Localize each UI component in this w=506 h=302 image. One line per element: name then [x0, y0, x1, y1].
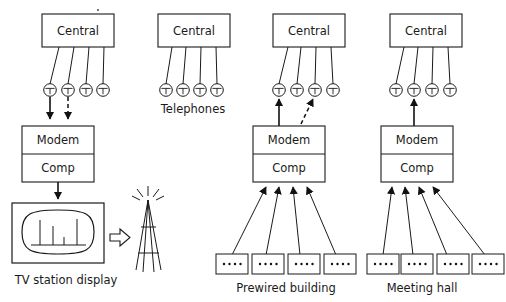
- modem-label-4: Modem: [396, 133, 439, 147]
- comp-label-1: Comp: [41, 161, 75, 175]
- terminal-box[interactable]: [437, 254, 469, 274]
- central-to-phone-lines-3: [279, 47, 333, 84]
- modem-comp-box-3[interactable]: Modem Comp: [253, 126, 325, 182]
- caption-tv-station: TV station display: [14, 273, 118, 287]
- telephone-icon[interactable]: [426, 84, 439, 97]
- tower-sparks: [132, 186, 164, 200]
- telephone-icon[interactable]: [211, 84, 224, 97]
- modem-comp-box-1[interactable]: Modem Comp: [22, 126, 94, 182]
- modem-comp-box-4[interactable]: Modem Comp: [381, 126, 453, 182]
- ink-speck: [97, 9, 99, 11]
- central-label-2: Central: [173, 24, 215, 38]
- telephone-icon[interactable]: [177, 84, 190, 97]
- central-box-1[interactable]: Central: [42, 14, 114, 47]
- caption-meeting-hall: Meeting hall: [387, 281, 458, 295]
- telephone-icon[interactable]: [80, 84, 93, 97]
- terminal-row-4: [367, 254, 504, 274]
- telephone-icon[interactable]: [97, 84, 110, 97]
- tv-display[interactable]: [12, 203, 104, 263]
- telephone-icon[interactable]: [62, 84, 75, 97]
- central-label-4: Central: [405, 24, 447, 38]
- telephone-icon[interactable]: [194, 84, 207, 97]
- flow-modem-to-phone3-3-dashed: [301, 99, 313, 124]
- telephone-icon[interactable]: [160, 84, 173, 97]
- modem-label-3: Modem: [268, 133, 311, 147]
- comp-label-4: Comp: [400, 161, 434, 175]
- terminal-box[interactable]: [324, 254, 356, 274]
- central-box-2[interactable]: Central: [158, 14, 230, 47]
- terminal-box[interactable]: [367, 254, 399, 274]
- telephone-row-1: [44, 84, 110, 97]
- central-box-3[interactable]: Central: [273, 14, 345, 47]
- central-box-4[interactable]: Central: [390, 14, 462, 47]
- comp-label-3: Comp: [272, 161, 306, 175]
- central-to-phone-lines-2: [166, 47, 217, 84]
- column-prewired-building: Central: [216, 14, 356, 295]
- telephone-icon[interactable]: [291, 84, 304, 97]
- central-label-3: Central: [288, 24, 330, 38]
- diagram-canvas: Central: [0, 0, 506, 302]
- telephone-row-4: [390, 84, 457, 97]
- central-to-phone-lines-4: [396, 47, 450, 84]
- modem-label-1: Modem: [37, 133, 80, 147]
- tv-screen: [22, 210, 94, 254]
- column-meeting-hall: Central: [367, 14, 504, 295]
- terminal-box[interactable]: [288, 254, 320, 274]
- terminal-links-3: [232, 187, 336, 255]
- telephone-icon[interactable]: [408, 84, 421, 97]
- telephone-icon[interactable]: [309, 84, 322, 97]
- terminal-links-4: [383, 187, 485, 255]
- caption-telephones: Telephones: [160, 102, 225, 116]
- terminal-box[interactable]: [472, 254, 504, 274]
- terminal-row-3: [216, 254, 356, 274]
- telephone-icon[interactable]: [44, 84, 57, 97]
- telephone-icon[interactable]: [273, 84, 286, 97]
- broadcast-arrow-icon: [110, 229, 130, 246]
- telephone-row-2: [160, 84, 224, 97]
- central-to-phone-lines-1: [50, 47, 104, 84]
- terminal-box[interactable]: [216, 254, 248, 274]
- terminal-box[interactable]: [401, 254, 433, 274]
- broadcast-tower-icon: [132, 186, 164, 272]
- central-label-1: Central: [57, 24, 99, 38]
- terminal-box[interactable]: [252, 254, 284, 274]
- column-tv-station: Central: [12, 9, 164, 287]
- telephone-icon[interactable]: [327, 84, 340, 97]
- telephone-row-3: [273, 84, 340, 97]
- caption-prewired-building: Prewired building: [236, 281, 335, 295]
- column-telephones: Central Tele: [158, 14, 230, 116]
- telephone-icon[interactable]: [444, 84, 457, 97]
- telephone-icon[interactable]: [390, 84, 403, 97]
